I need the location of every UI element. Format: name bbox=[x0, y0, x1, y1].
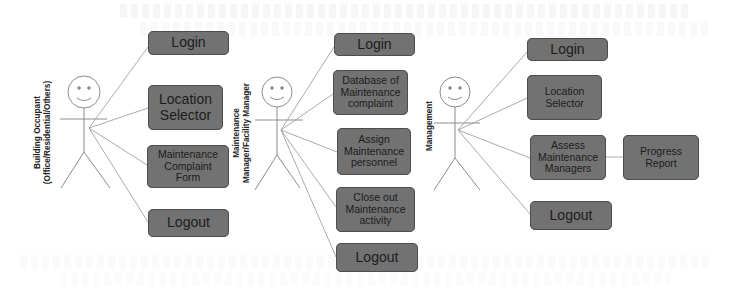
use-case-diagram: Building Occupant (Office/Residential/Ot… bbox=[0, 0, 730, 288]
use-case-location-selector-occupant[interactable]: Location Selector bbox=[148, 85, 223, 130]
actor-label-line1: Management bbox=[425, 97, 435, 155]
use-case-label: Login bbox=[357, 37, 391, 53]
use-case-label: Login bbox=[171, 35, 205, 51]
use-case-progress-report[interactable]: Progress Report bbox=[623, 135, 699, 180]
actor-label-management: Management bbox=[425, 97, 435, 155]
actor-label-line1: Building Occupant bbox=[33, 70, 43, 195]
use-case-label: Form bbox=[158, 172, 218, 184]
use-case-label: Assess bbox=[538, 140, 598, 152]
use-case-label: Logout bbox=[550, 208, 593, 224]
association-lines-maintenance-manager bbox=[281, 47, 337, 257]
use-case-label: Managers bbox=[538, 163, 598, 175]
use-case-label: Logout bbox=[356, 250, 399, 266]
use-case-label: Maintenance bbox=[158, 149, 218, 161]
actor-label-maintenance-manager: Maintenance Manager/Facility Manager bbox=[232, 74, 252, 192]
actor-stick-figure-management bbox=[434, 77, 480, 190]
actor-stick-figure-maintenance-manager bbox=[255, 77, 303, 190]
use-case-logout-occupant[interactable]: Logout bbox=[148, 209, 229, 237]
use-case-login-occupant[interactable]: Login bbox=[148, 31, 229, 55]
use-case-maintenance-complaint-form[interactable]: Maintenance Complaint Form bbox=[147, 145, 229, 188]
actor-stick-figure-building-occupant bbox=[60, 76, 110, 188]
use-case-label: complaint bbox=[340, 98, 400, 110]
use-case-label: Location bbox=[545, 86, 585, 98]
use-case-label: Selector bbox=[159, 108, 212, 124]
use-case-location-selector-management[interactable]: Location Selector bbox=[527, 75, 602, 120]
use-case-label: Selector bbox=[545, 98, 585, 110]
use-case-login-management[interactable]: Login bbox=[527, 38, 608, 61]
use-case-label: Database of bbox=[340, 75, 400, 87]
use-case-label: Report bbox=[640, 158, 682, 170]
use-case-logout-manager[interactable]: Logout bbox=[336, 243, 418, 272]
actor-label-line2: (Office/Residential/Others) bbox=[43, 70, 53, 195]
use-case-label: activity bbox=[345, 215, 405, 227]
use-case-label: Assign bbox=[344, 134, 404, 146]
use-case-login-manager[interactable]: Login bbox=[334, 33, 415, 56]
actor-label-building-occupant: Building Occupant (Office/Residential/Ot… bbox=[33, 70, 53, 195]
use-case-label: Logout bbox=[167, 215, 210, 231]
use-case-label: Close out bbox=[345, 192, 405, 204]
use-case-assign-maintenance-personnel[interactable]: Assign Maintenance personnel bbox=[337, 128, 411, 175]
association-lines-building-occupant bbox=[89, 47, 148, 222]
use-case-database-of-maintenance-complaint[interactable]: Database of Maintenance complaint bbox=[333, 70, 408, 115]
use-case-label: Progress bbox=[640, 146, 682, 158]
use-case-assess-maintenance-managers[interactable]: Assess Maintenance Managers bbox=[530, 135, 606, 180]
use-case-label: Location bbox=[159, 92, 212, 108]
actor-label-line2: Manager/Facility Manager bbox=[242, 74, 252, 192]
actor-label-line1: Maintenance bbox=[232, 74, 242, 192]
use-case-logout-management[interactable]: Logout bbox=[530, 201, 612, 230]
use-case-close-out-maintenance-activity[interactable]: Close out Maintenance activity bbox=[336, 187, 415, 232]
use-case-label: Login bbox=[550, 42, 584, 58]
use-case-label: personnel bbox=[344, 157, 404, 169]
